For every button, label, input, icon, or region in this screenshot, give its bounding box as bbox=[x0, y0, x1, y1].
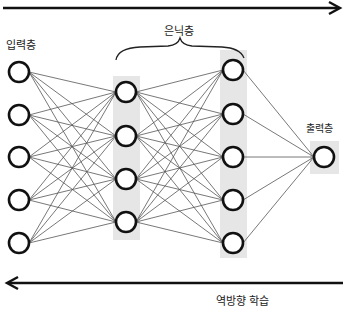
edge bbox=[243, 70, 314, 157]
edge bbox=[136, 70, 223, 136]
hidden1-node bbox=[116, 126, 136, 146]
input-layer-label: 입력층 bbox=[6, 36, 36, 52]
hidden-layer-label: 은닉층 bbox=[164, 22, 194, 38]
edge bbox=[136, 70, 223, 92]
edge bbox=[29, 92, 116, 243]
edge bbox=[136, 200, 223, 222]
input-node bbox=[9, 62, 29, 82]
neural-network-diagram bbox=[0, 0, 343, 309]
edge bbox=[29, 92, 116, 115]
hidden2-node bbox=[223, 60, 243, 80]
backprop-label: 역방향 학습 bbox=[216, 292, 270, 308]
edge bbox=[29, 115, 116, 222]
edge bbox=[29, 222, 116, 243]
edge bbox=[29, 179, 116, 243]
hidden2-node bbox=[223, 147, 243, 167]
hidden1-node bbox=[116, 169, 136, 189]
edge bbox=[243, 157, 314, 243]
hidden2-node bbox=[223, 233, 243, 253]
edge bbox=[136, 70, 223, 179]
hidden2-node bbox=[223, 104, 243, 124]
output-node bbox=[314, 147, 334, 167]
edge bbox=[29, 115, 116, 136]
edge bbox=[29, 136, 116, 243]
hidden2-node bbox=[223, 190, 243, 210]
hidden1-node bbox=[116, 212, 136, 232]
input-node bbox=[9, 105, 29, 125]
output-layer-label: 출력층 bbox=[306, 120, 333, 135]
edge bbox=[243, 114, 314, 157]
input-node bbox=[9, 233, 29, 253]
edge bbox=[136, 222, 223, 243]
edge bbox=[136, 114, 223, 222]
input-node bbox=[9, 147, 29, 167]
input-node bbox=[9, 190, 29, 210]
edge bbox=[243, 157, 314, 200]
hidden1-node bbox=[116, 82, 136, 102]
